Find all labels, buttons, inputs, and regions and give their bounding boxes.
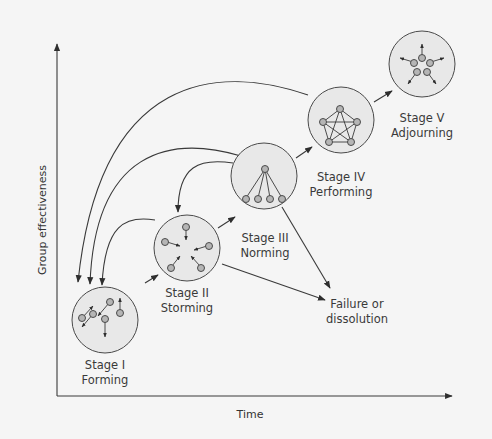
stage-1-title: Stage I [85, 358, 125, 372]
failure-arrow-from-stage2 [222, 264, 325, 300]
stage-3-title: Stage III [241, 231, 288, 245]
stage-5-adjourning: Stage V Adjourning [389, 31, 455, 140]
stage-5-name: Adjourning [391, 126, 453, 140]
stage-4-performing: Stage IV Performing [308, 87, 374, 199]
stage-4-circle [308, 87, 374, 153]
stage-2-storming: Stage II Storming [154, 215, 220, 315]
stage-1-forming: Stage I Forming [72, 287, 138, 387]
diagram-canvas: Time Group effectiveness Failure or diss… [0, 0, 492, 439]
forward-arrow-stage3-to-stage4 [296, 147, 312, 158]
stage-3-name: Norming [240, 246, 289, 260]
stage-4-title: Stage IV [317, 170, 365, 184]
forward-arrow-stage2-to-stage3 [218, 217, 235, 228]
stage-2-name: Storming [161, 301, 213, 315]
stage-3-circle [231, 143, 297, 209]
group-development-diagram: Time Group effectiveness Failure or diss… [0, 0, 492, 439]
stage-2-title: Stage II [165, 286, 209, 300]
forward-arrow-stage4-to-stage5 [374, 91, 392, 102]
regression-arrow-stage3-to-stage2 [178, 162, 233, 212]
y-axis-label: Group effectiveness [36, 165, 49, 275]
regression-arrow-stage2-to-stage1 [102, 219, 155, 285]
failure-label-line2: dissolution [326, 312, 388, 326]
stage-1-name: Forming [82, 373, 129, 387]
x-axis-label: Time [236, 408, 264, 421]
forward-arrow-stage1-to-stage2 [145, 275, 158, 283]
stage-4-name: Performing [310, 185, 373, 199]
stage-5-title: Stage V [400, 111, 445, 125]
failure-label-line1: Failure or [330, 297, 384, 311]
stage-3-norming: Stage III Norming [231, 143, 297, 260]
stage-5-circle [389, 31, 455, 97]
